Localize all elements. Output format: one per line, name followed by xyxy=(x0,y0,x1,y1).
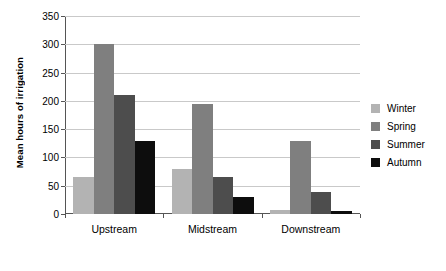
legend-swatch xyxy=(371,104,380,113)
x-axis-category-label: Midstream xyxy=(188,223,237,235)
bar xyxy=(311,192,332,214)
x-tick-mark xyxy=(262,214,263,218)
legend-label: Autumn xyxy=(387,157,421,168)
bar xyxy=(331,211,352,214)
legend-swatch xyxy=(371,140,380,149)
y-axis-title: Mean hours of irrigation xyxy=(10,0,28,225)
y-tick-label: 150 xyxy=(42,124,59,135)
bar xyxy=(172,169,193,214)
plot-area: 050100150200250300350 UpstreamMidstreamD… xyxy=(65,16,360,214)
y-tick-label: 350 xyxy=(42,11,59,22)
bar xyxy=(135,141,156,214)
y-tick-label: 200 xyxy=(42,95,59,106)
x-tick-mark xyxy=(163,214,164,218)
bar xyxy=(192,104,213,214)
legend: WinterSpringSummerAutumn xyxy=(371,99,425,171)
bar xyxy=(213,177,234,214)
legend-label: Winter xyxy=(387,103,416,114)
y-tick-label: 0 xyxy=(53,209,59,220)
bar xyxy=(73,177,94,214)
legend-item-winter: Winter xyxy=(371,99,425,117)
legend-swatch xyxy=(371,158,380,167)
legend-item-autumn: Autumn xyxy=(371,153,425,171)
bars-layer xyxy=(65,16,360,214)
legend-item-summer: Summer xyxy=(371,135,425,153)
legend-swatch xyxy=(371,122,380,131)
bar xyxy=(114,95,135,214)
bar xyxy=(233,197,254,214)
bar xyxy=(270,210,291,214)
x-axis-category-label: Downstream xyxy=(281,223,340,235)
y-tick-label: 50 xyxy=(48,180,59,191)
x-axis-category-label: Upstream xyxy=(91,223,137,235)
bar-chart: Mean hours of irrigation 050100150200250… xyxy=(0,0,446,271)
x-tick-mark xyxy=(360,214,361,218)
legend-label: Summer xyxy=(387,139,425,150)
y-tick-label: 250 xyxy=(42,67,59,78)
legend-label: Spring xyxy=(387,121,416,132)
bar xyxy=(290,141,311,214)
legend-item-spring: Spring xyxy=(371,117,425,135)
y-tick-label: 100 xyxy=(42,152,59,163)
y-tick-label: 300 xyxy=(42,39,59,50)
y-axis-title-text: Mean hours of irrigation xyxy=(14,57,25,168)
bar xyxy=(94,44,115,214)
x-tick-mark xyxy=(65,214,66,218)
